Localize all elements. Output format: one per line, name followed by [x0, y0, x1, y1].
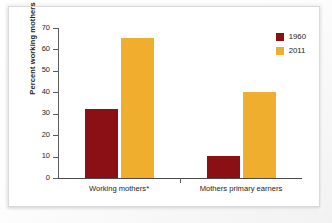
legend-item[interactable]: 2011	[276, 46, 306, 55]
y-tick-label: 70	[42, 23, 50, 32]
legend-item[interactable]: 1960	[276, 32, 306, 41]
legend-label: 2011	[289, 46, 306, 55]
y-tick: 0	[53, 178, 58, 179]
bar	[85, 109, 118, 178]
y-tick-label: 60	[42, 44, 50, 53]
y-tick-label: 10	[42, 151, 50, 160]
legend-swatch-icon	[276, 47, 284, 55]
x-axis-line	[54, 178, 302, 179]
chart-legend: 19602011	[276, 32, 306, 55]
legend-label: 1960	[289, 32, 306, 41]
y-axis-label: Percent working mothers	[28, 0, 37, 109]
y-tick: 10	[53, 157, 58, 158]
y-axis-line	[58, 28, 59, 178]
category-label: Mothers primary earners	[180, 184, 302, 193]
y-tick-label: 0	[46, 173, 50, 182]
category-separator-tick	[180, 178, 181, 183]
grouped-bar-chart: Percent working mothers 010203040506070 …	[8, 6, 320, 207]
bar	[243, 92, 276, 178]
bar	[121, 38, 154, 178]
category-label: Working mothers*	[58, 184, 180, 193]
bar	[207, 156, 240, 179]
y-tick: 60	[53, 49, 58, 50]
y-tick: 50	[53, 71, 58, 72]
y-tick-label: 20	[42, 130, 50, 139]
y-tick-label: 40	[42, 87, 50, 96]
legend-swatch-icon	[276, 33, 284, 41]
y-tick: 20	[53, 135, 58, 136]
y-tick: 40	[53, 92, 58, 93]
y-tick: 70	[53, 28, 58, 29]
y-tick-label: 50	[42, 65, 50, 74]
y-tick-label: 30	[42, 108, 50, 117]
plot-area: 010203040506070 Working mothers*Mothers …	[58, 28, 302, 178]
chart-page: Percent working mothers 010203040506070 …	[0, 0, 332, 223]
y-tick: 30	[53, 114, 58, 115]
